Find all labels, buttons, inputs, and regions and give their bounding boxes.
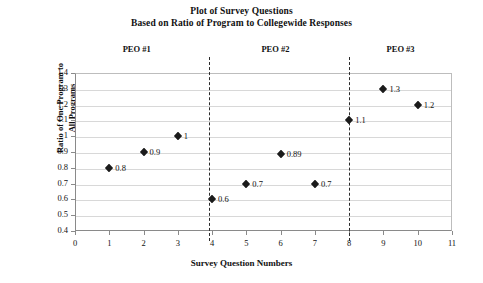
chart-title-block: Plot of Survey Questions Based on Ratio … [0, 5, 483, 29]
x-tick-mark [281, 231, 282, 235]
gridline-y [76, 216, 451, 217]
x-tick-mark [75, 231, 76, 235]
x-tick-label: 1 [107, 238, 111, 248]
data-point-label: 0.89 [287, 149, 302, 159]
data-point-label: 1.1 [355, 115, 366, 125]
peo-group-label: PEO #1 [123, 44, 151, 54]
x-tick-mark [418, 231, 419, 235]
x-tick-mark [212, 231, 213, 235]
plot-area [75, 73, 452, 231]
x-tick-label: 0 [73, 238, 77, 248]
x-tick-mark [315, 231, 316, 235]
x-tick-label: 5 [244, 238, 248, 248]
x-tick-label: 2 [141, 238, 145, 248]
gridline-y [76, 169, 451, 170]
gridline-y [76, 185, 451, 186]
survey-questions-scatter-chart: Plot of Survey Questions Based on Ratio … [0, 0, 483, 283]
chart-subtitle: Based on Ratio of Program to Collegewide… [0, 17, 483, 29]
x-tick-mark [452, 231, 453, 235]
y-tick-label: 1.2 [44, 99, 68, 109]
x-tick-mark [383, 231, 384, 235]
y-tick-label: 0.9 [44, 146, 68, 156]
data-point-label: 0.8 [115, 163, 126, 173]
y-tick-label: 1.4 [44, 67, 68, 77]
gridline-y [76, 137, 451, 138]
x-tick-label: 7 [313, 238, 317, 248]
data-point-label: 0.9 [150, 147, 161, 157]
x-tick-label: 11 [448, 238, 456, 248]
y-tick-label: 0.8 [44, 162, 68, 172]
data-point-label: 0.7 [252, 179, 263, 189]
data-point-label: 1.3 [389, 84, 400, 94]
peo-divider-line [349, 57, 350, 241]
y-tick-label: 0.6 [44, 193, 68, 203]
x-axis-title: Survey Question Numbers [0, 258, 483, 268]
gridline-y [76, 121, 451, 122]
chart-title: Plot of Survey Questions [0, 5, 483, 17]
x-tick-mark [246, 231, 247, 235]
y-tick-label: 1.1 [44, 114, 68, 124]
x-tick-mark [109, 231, 110, 235]
data-point-label: 1.2 [424, 100, 435, 110]
y-tick-label: 1 [44, 130, 68, 140]
y-tick-label: 0.4 [44, 225, 68, 235]
y-tick-label: 1.3 [44, 83, 68, 93]
data-point-label: 1 [184, 131, 188, 141]
peo-group-label: PEO #3 [387, 44, 415, 54]
data-point-label: 0.7 [321, 179, 332, 189]
y-tick-label: 0.7 [44, 178, 68, 188]
x-tick-label: 4 [210, 238, 214, 248]
x-tick-mark [144, 231, 145, 235]
peo-group-label: PEO #2 [261, 44, 289, 54]
x-tick-mark [178, 231, 179, 235]
x-tick-label: 3 [176, 238, 180, 248]
x-tick-label: 10 [413, 238, 422, 248]
gridline-y [76, 106, 451, 107]
gridline-y [76, 153, 451, 154]
y-tick-label: 0.5 [44, 209, 68, 219]
peo-divider-line [209, 57, 210, 241]
x-tick-label: 9 [381, 238, 385, 248]
gridline-y [76, 200, 451, 201]
data-point-label: 0.6 [218, 194, 229, 204]
x-tick-label: 6 [279, 238, 283, 248]
